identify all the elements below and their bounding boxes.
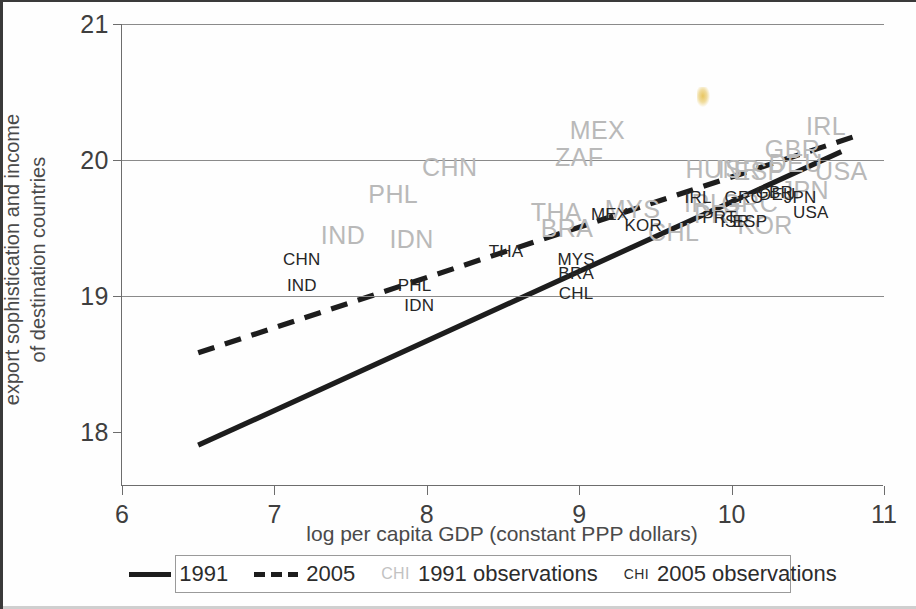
observation-label-chn-2005: CHN — [283, 251, 320, 268]
legend-item-2005[interactable]: 2005 — [254, 561, 355, 587]
observation-label-usa-2005: USA — [793, 203, 829, 220]
chi-dark-swatch-icon: CHI — [624, 566, 649, 582]
plot-area: 1819202167891011CHNPHLINDIDNMEXZAFTHABRA… — [121, 24, 883, 486]
observation-label-chl-2005: CHL — [559, 285, 594, 302]
y-tick-label-20: 20 — [80, 145, 109, 174]
y-tick-20 — [113, 160, 122, 161]
x-tick-7 — [274, 486, 275, 495]
y-tick-21 — [113, 24, 122, 25]
gridline-21 — [122, 24, 884, 25]
observation-label-phl-1991: PHL — [368, 181, 418, 206]
observation-label-phl-2005: PHL — [398, 276, 432, 293]
y-axis-title-line1: export sophistication and income — [0, 95, 26, 425]
observation-label-mex-1991: MEX — [570, 117, 625, 142]
legend-label-2005: 2005 — [306, 561, 355, 587]
x-axis-title: log per capita GDP (constant PPP dollars… — [121, 522, 883, 546]
legend-item-1991[interactable]: 1991 — [129, 561, 228, 587]
observation-label-esp-2005: ESP — [733, 213, 768, 230]
legend-label-1991: 1991 — [179, 561, 228, 587]
y-tick-18 — [113, 432, 122, 433]
y-axis-title: export sophistication and income of dest… — [0, 95, 51, 425]
x-tick-8 — [427, 486, 428, 495]
legend-item-1991-observations[interactable]: CHI 1991 observations — [381, 561, 598, 587]
x-tick-6 — [122, 486, 123, 495]
y-tick-label-21: 21 — [80, 10, 109, 39]
observation-label-ind-2005: IND — [287, 276, 317, 293]
legend-label-1991-observations: 1991 observations — [418, 561, 598, 587]
legend-label-2005-observations: 2005 observations — [657, 561, 837, 587]
observation-label-irl-2005: IRL — [685, 188, 712, 205]
gridline-19 — [122, 296, 884, 297]
x-tick-10 — [732, 486, 733, 495]
x-tick-11 — [884, 486, 885, 495]
observation-label-gbr-1991: GBR — [765, 137, 820, 162]
dashed-line-swatch-icon — [254, 572, 298, 577]
solid-line-swatch-icon — [129, 572, 171, 577]
y-tick-19 — [113, 296, 122, 297]
observation-label-bra-1991: BRA — [541, 215, 594, 240]
chart-figure: 1819202167891011CHNPHLINDIDNMEXZAFTHABRA… — [0, 0, 916, 609]
observation-label-tha-2005: THA — [489, 242, 524, 259]
observation-label-idn-2005: IDN — [404, 297, 434, 314]
y-axis-title-line2: of destination countries — [26, 95, 52, 425]
observation-label-idn-1991: IDN — [389, 226, 433, 251]
chi-gray-swatch-icon: CHI — [381, 565, 410, 583]
x-tick-9 — [579, 486, 580, 495]
legend-item-2005-observations[interactable]: CHI 2005 observations — [624, 561, 837, 587]
observation-label-chn-1991: CHN — [422, 154, 477, 179]
y-tick-label-18: 18 — [80, 417, 109, 446]
observation-label-bra-2005: BRA — [558, 264, 594, 281]
observation-label-ind-1991: IND — [321, 222, 365, 247]
observation-label-irl-1991: IRL — [806, 113, 846, 138]
observation-label-mex-2005: MEX — [591, 206, 628, 223]
observation-label-zaf-1991: ZAF — [555, 145, 603, 170]
chart-legend: 1991 2005 CHI 1991 observations CHI 2005… — [175, 555, 791, 593]
observation-label-kor-2005: KOR — [624, 217, 661, 234]
y-tick-label-19: 19 — [80, 281, 109, 310]
